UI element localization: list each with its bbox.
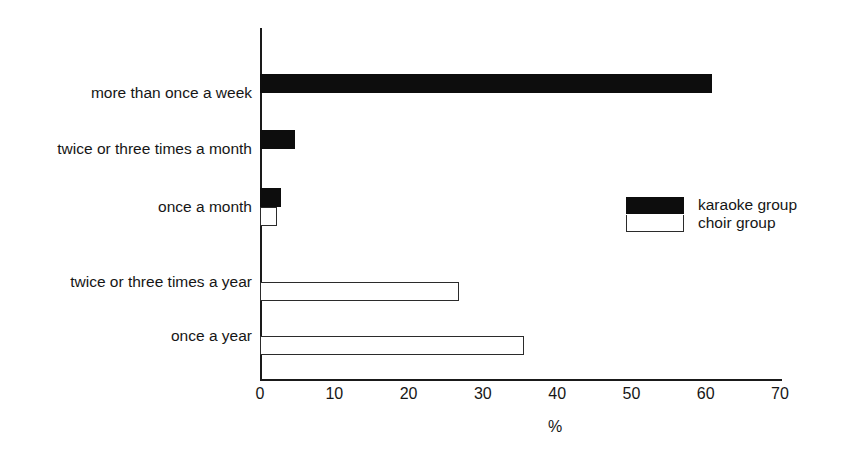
category-label: more than once a week <box>2 84 252 102</box>
bar-choir <box>260 207 277 226</box>
category-label: twice or three times a month <box>2 140 252 158</box>
bar-choir <box>260 282 459 301</box>
bar-chart: more than once a weektwice or three time… <box>0 0 846 462</box>
bar-karaoke <box>260 74 712 93</box>
x-tick-label: 50 <box>601 385 661 403</box>
category-label: once a year <box>2 327 252 345</box>
category-label: twice or three times a year <box>2 273 252 291</box>
legend: karaoke group choir group <box>626 196 797 232</box>
x-tick-label: 40 <box>527 385 587 403</box>
legend-label-karaoke: karaoke group <box>698 196 797 214</box>
bar-karaoke <box>260 130 295 149</box>
x-tick-label: 60 <box>676 385 736 403</box>
legend-item-choir: choir group <box>626 214 797 232</box>
x-tick-label: 70 <box>750 385 810 403</box>
bar-choir <box>260 336 524 355</box>
x-tick-label: 10 <box>304 385 364 403</box>
x-tick-label: 30 <box>453 385 513 403</box>
bar-karaoke <box>260 188 281 207</box>
x-axis-title: % <box>525 418 585 436</box>
legend-swatch-karaoke-icon <box>626 197 684 214</box>
legend-label-choir: choir group <box>698 214 776 232</box>
x-axis-line <box>260 379 782 381</box>
legend-item-karaoke: karaoke group <box>626 196 797 214</box>
x-tick-label: 0 <box>230 385 290 403</box>
x-tick-label: 20 <box>379 385 439 403</box>
legend-swatch-choir-icon <box>626 215 684 232</box>
category-label: once a month <box>2 198 252 216</box>
